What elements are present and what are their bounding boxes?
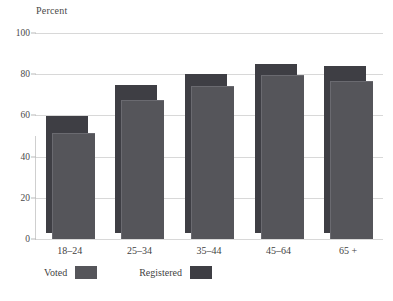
legend-item-voted[interactable]: Voted [44, 266, 97, 279]
x-axis-label-25–34: 25–34 [127, 245, 152, 256]
y-tick-label-80: 80 [2, 69, 30, 79]
legend-swatch-voted [75, 266, 97, 279]
legend-label-registered: Registered [139, 267, 182, 278]
chart-container: Percent 020406080100 18–2425–3435–4445–6… [0, 0, 393, 301]
bar-voted-18–24 [52, 133, 95, 239]
y-tick-label-20: 20 [2, 193, 30, 203]
x-axis-label-18–24: 18–24 [57, 245, 82, 256]
x-axis-label-group: 18–2425–3435–4445–6465 + [35, 245, 383, 261]
gridline-0 [35, 239, 383, 240]
y-tick-label-100: 100 [2, 28, 30, 38]
y-tick-label-0: 0 [2, 234, 30, 244]
x-axis-label-35–44: 35–44 [197, 245, 222, 256]
plot-area: 020406080100 [35, 33, 383, 239]
chart-legend: Voted Registered [44, 264, 212, 280]
bar-voted-65 + [330, 81, 373, 239]
y-axis-title: Percent [36, 5, 67, 16]
bar-voted-45–64 [261, 75, 304, 239]
legend-item-registered[interactable]: Registered [139, 266, 212, 279]
legend-swatch-registered [190, 266, 212, 279]
x-axis-label-65 +: 65 + [339, 245, 357, 256]
legend-spacer [97, 272, 139, 273]
bar-voted-25–34 [121, 100, 164, 239]
bar-voted-35–44 [191, 86, 234, 239]
y-tick-label-40: 40 [2, 152, 30, 162]
legend-label-voted: Voted [44, 267, 67, 278]
x-axis-label-45–64: 45–64 [266, 245, 291, 256]
y-tick-label-60: 60 [2, 110, 30, 120]
